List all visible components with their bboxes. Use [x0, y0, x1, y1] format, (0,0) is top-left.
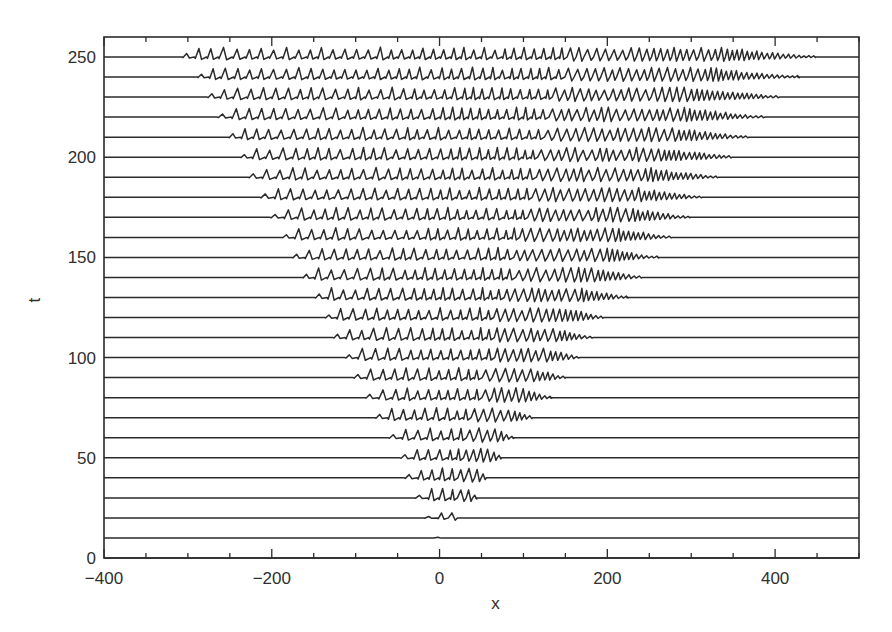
y-tick-label: 250 [68, 48, 96, 67]
wave-trace-t110 [104, 328, 859, 342]
y-tick-label: 200 [68, 148, 96, 167]
wave-traces [104, 47, 859, 558]
wave-trace-t100 [104, 348, 859, 362]
wave-trace-t190 [104, 168, 859, 182]
x-tick-label: 400 [761, 569, 789, 588]
y-axis-tick-labels: 050100150200250 [68, 48, 96, 568]
wave-trace-t180 [104, 188, 859, 202]
wave-trace-t40 [104, 468, 859, 482]
wave-trace-t60 [104, 428, 859, 442]
wave-trace-t170 [104, 207, 859, 221]
x-tick-label: 200 [593, 569, 621, 588]
x-tick-label: −200 [253, 569, 291, 588]
x-tick-label: −400 [85, 569, 123, 588]
wave-trace-t250 [104, 47, 859, 61]
wave-trace-t70 [104, 408, 859, 422]
wave-trace-t20 [104, 513, 859, 520]
wave-trace-t130 [104, 288, 859, 302]
wave-trace-t140 [104, 268, 859, 282]
wave-trace-t210 [104, 127, 859, 141]
x-axis-tick-labels: −400−2000200400 [85, 569, 789, 588]
wave-trace-t30 [104, 489, 859, 502]
y-tick-label: 100 [68, 349, 96, 368]
wave-trace-t10 [104, 537, 859, 538]
wave-trace-t200 [104, 148, 859, 162]
wave-trace-t160 [104, 228, 859, 242]
y-axis-label: t [25, 297, 44, 302]
x-axis-label: x [491, 594, 500, 613]
chart: −400−2000200400 050100150200250 x t [0, 0, 892, 632]
wave-trace-t240 [104, 67, 859, 81]
wave-trace-t90 [104, 368, 859, 382]
y-tick-label: 150 [68, 248, 96, 267]
y-tick-label: 0 [87, 549, 96, 568]
y-tick-label: 50 [77, 449, 96, 468]
wave-trace-t230 [104, 87, 859, 101]
wave-trace-t50 [104, 449, 859, 463]
wave-trace-t120 [104, 308, 859, 322]
wave-trace-t220 [104, 107, 859, 121]
wave-trace-t150 [104, 248, 859, 262]
x-tick-label: 0 [435, 569, 444, 588]
wave-trace-t80 [104, 388, 859, 402]
